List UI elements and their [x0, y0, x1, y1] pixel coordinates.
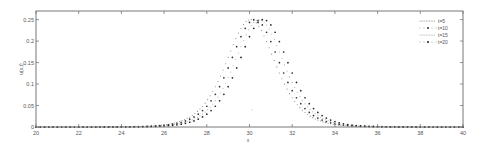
data-point: [228, 57, 229, 58]
data-point: [317, 115, 318, 116]
data-point: [187, 121, 188, 122]
data-point: [358, 125, 359, 126]
data-point: [189, 120, 190, 121]
data-point: [315, 113, 316, 114]
data-point: [249, 36, 251, 38]
data-point: [197, 118, 199, 120]
data-point: [189, 121, 191, 123]
data-point: [340, 125, 341, 126]
data-point: [287, 82, 289, 84]
data-point: [294, 101, 295, 102]
data-point: [270, 24, 272, 26]
legend-label: t=15: [438, 32, 448, 38]
data-point: [317, 120, 318, 121]
data-point: [220, 92, 221, 93]
y-tick-label: 0.1: [26, 81, 34, 87]
y-tick-label: 0.25: [23, 17, 34, 23]
data-point: [287, 62, 289, 64]
y-tick-label: 0.05: [23, 103, 34, 109]
x-tick-label: 24: [118, 130, 124, 136]
data-point: [281, 78, 282, 79]
data-point: [300, 90, 302, 92]
x-tick-label: 20: [33, 130, 39, 136]
data-point: [292, 82, 293, 83]
series-t-20: [35, 19, 464, 128]
data-point: [271, 54, 272, 55]
data-point: [289, 93, 290, 94]
data-point: [202, 110, 204, 112]
data-point: [296, 97, 298, 99]
data-point: [340, 124, 341, 125]
data-point: [302, 100, 303, 101]
data-point: [269, 28, 270, 29]
data-point: [266, 41, 267, 42]
data-point: [291, 72, 293, 74]
series-t-10: [35, 19, 464, 128]
y-axis-label: u(x,t): [18, 63, 24, 75]
x-tick-label: 26: [161, 130, 167, 136]
legend-label: t=5: [438, 18, 445, 24]
x-tick-label: 40: [460, 130, 466, 136]
data-point: [257, 22, 259, 24]
data-point: [168, 125, 170, 127]
data-point: [304, 108, 306, 110]
data-point: [326, 121, 328, 123]
data-point: [222, 69, 223, 70]
data-point: [291, 90, 293, 92]
data-point: [240, 36, 242, 38]
data-point: [174, 124, 175, 125]
data-point: [283, 72, 285, 74]
x-tick-label: 28: [204, 130, 210, 136]
data-point: [281, 58, 282, 59]
y-tick-label: 0.2: [26, 38, 34, 44]
data-point: [197, 117, 198, 118]
data-point: [253, 27, 255, 29]
x-tick-label: 22: [76, 130, 82, 136]
data-point: [307, 114, 308, 115]
data-point: [192, 115, 193, 116]
data-point: [297, 104, 298, 105]
data-point: [317, 112, 319, 114]
data-point: [179, 123, 180, 124]
data-point: [310, 116, 311, 117]
soliton-chart: 2022242628303234363840 00.050.10.150.20.…: [0, 0, 479, 144]
data-point: [212, 91, 213, 92]
data-point: [187, 118, 188, 119]
data-point: [330, 119, 332, 121]
legend: t=5t=10t=15t=20: [419, 18, 448, 45]
data-point: [274, 39, 275, 40]
data-point: [225, 83, 226, 84]
data-point: [236, 46, 238, 48]
data-point: [320, 117, 321, 118]
data-point: [330, 121, 331, 122]
data-point: [172, 124, 174, 126]
legend-label: t=10: [438, 25, 448, 31]
data-point: [199, 115, 200, 116]
data-point: [205, 103, 206, 104]
data-point: [284, 64, 285, 65]
data-point: [238, 33, 239, 34]
data-point: [326, 117, 328, 119]
series-t-15: [35, 19, 461, 128]
data-point: [225, 63, 226, 64]
data-point: [240, 46, 241, 47]
data-point: [338, 122, 340, 124]
data-point: [263, 21, 264, 22]
data-point: [287, 89, 288, 90]
data-point: [184, 119, 185, 120]
data-point: [251, 25, 252, 26]
data-point: [294, 87, 295, 88]
data-point: [253, 19, 255, 21]
data-point: [360, 125, 362, 127]
legend-item: t=10: [419, 25, 448, 31]
data-point: [205, 112, 206, 113]
data-point: [180, 123, 182, 125]
data-point: [328, 120, 329, 121]
y-axis-ticks: 00.050.10.150.20.25: [23, 17, 463, 130]
data-point: [313, 108, 315, 110]
data-point: [322, 118, 323, 119]
data-point: [253, 22, 254, 23]
data-point: [228, 77, 229, 78]
data-point: [223, 94, 225, 96]
chart-canvas: 2022242628303234363840 00.050.10.150.20.…: [0, 0, 479, 144]
